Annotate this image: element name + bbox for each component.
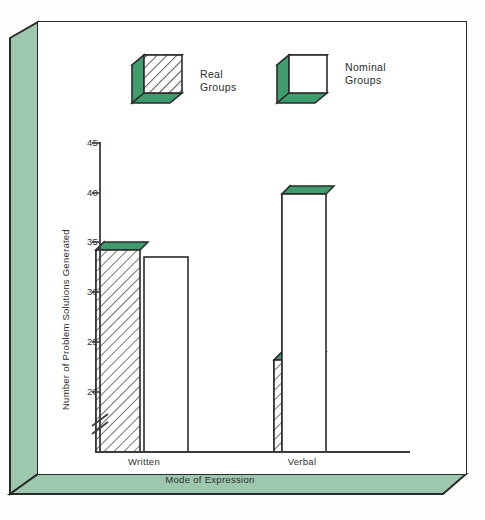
figure-plate: Real Groups Nominal Groups Number of Pro… <box>38 22 466 474</box>
bar-written-real-front <box>96 250 140 452</box>
bar-written-real-top <box>96 242 148 250</box>
x-tick-label-verbal: Verbal <box>240 456 364 467</box>
plot-svg <box>38 22 466 474</box>
bar-verbal-nominal-front <box>282 194 326 452</box>
frame-left-panel <box>10 22 38 494</box>
bar-verbal-nominal-top <box>282 186 334 194</box>
x-tick-label-written: Written <box>82 456 206 467</box>
figure-canvas: Real Groups Nominal Groups Number of Pro… <box>0 0 485 520</box>
x-axis-title: Mode of Expression <box>100 474 320 485</box>
bar-written-nominal-front <box>144 257 188 452</box>
plot-area: Number of Problem Solutions Generated 45… <box>38 22 466 474</box>
